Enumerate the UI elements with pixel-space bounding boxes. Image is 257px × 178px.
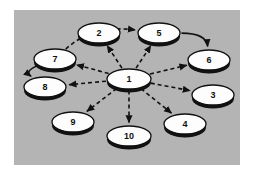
node-9-label: 9 <box>70 117 75 127</box>
node-5-label: 5 <box>156 28 161 38</box>
edge-1-to-4 <box>141 89 172 114</box>
edge-1-to-5 <box>136 45 151 68</box>
node-8-label: 8 <box>42 82 47 92</box>
edge-1-to-3 <box>151 83 190 90</box>
node-6[interactable]: 6 <box>188 50 230 74</box>
node-4[interactable]: 4 <box>164 114 206 138</box>
edge-1-to-2 <box>107 45 122 68</box>
node-9[interactable]: 9 <box>52 112 94 136</box>
node-1-label: 1 <box>126 74 131 84</box>
node-3-label: 3 <box>210 90 215 100</box>
node-10[interactable]: 10 <box>107 126 151 150</box>
edge-1-to-9 <box>87 89 117 112</box>
edge-7-to-8 <box>29 66 38 77</box>
edge-5-to-6 <box>181 33 207 46</box>
edge-1-to-6 <box>150 65 187 74</box>
node-10-label: 10 <box>124 131 134 141</box>
node-3[interactable]: 3 <box>192 85 234 109</box>
node-6-label: 6 <box>206 55 211 65</box>
node-7[interactable]: 7 <box>34 49 76 73</box>
node-7-label: 7 <box>52 54 57 64</box>
diagram-figure: 12345678910 <box>0 0 257 178</box>
node-5[interactable]: 5 <box>138 23 180 47</box>
node-8[interactable]: 8 <box>24 77 66 101</box>
edge-1-to-8 <box>69 81 106 85</box>
edge-1-to-7 <box>77 65 109 74</box>
node-2-label: 2 <box>96 28 101 38</box>
node-4-label: 4 <box>182 119 187 129</box>
node-1[interactable]: 1 <box>107 69 151 93</box>
node-2[interactable]: 2 <box>78 23 120 47</box>
node-layer: 12345678910 <box>24 23 234 150</box>
diagram-canvas: 12345678910 <box>0 0 257 178</box>
